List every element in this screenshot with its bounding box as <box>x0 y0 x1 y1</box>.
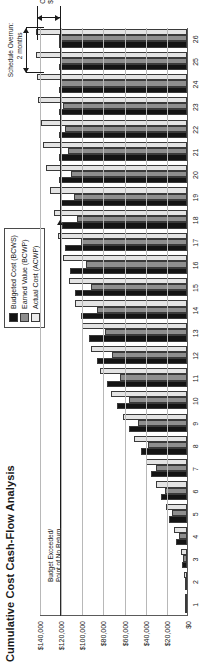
schedule-overrun-label-line1: Schedule Overrun: <box>7 23 14 77</box>
bar-acwp <box>166 504 187 510</box>
bar-bcwp <box>165 488 187 494</box>
bar-bcwp <box>112 352 187 358</box>
x-axis-tick-label: 22 <box>192 126 199 134</box>
x-axis-tick-label: 24 <box>192 81 199 89</box>
x-axis-tick-label: 21 <box>192 148 199 156</box>
cost-overrun-ref-budget <box>60 6 61 40</box>
bar-acwp <box>181 549 187 555</box>
x-axis-tick-label: 6 <box>192 490 199 494</box>
bar-bcws <box>129 426 187 432</box>
bar-bcwp <box>68 148 187 154</box>
bar-bcwp <box>120 374 187 380</box>
bar-bcws <box>107 381 187 387</box>
cost-overrun-label-line1: Cost Overrun: <box>39 0 46 4</box>
x-axis-tick-label: 9 <box>192 422 199 426</box>
schedule-overrun-arrow-left <box>23 68 29 73</box>
plot-area <box>40 28 188 616</box>
y-axis-tick-label: $0 <box>185 621 192 668</box>
legend-swatch-bcws <box>9 313 18 322</box>
bar-bcws <box>185 584 187 590</box>
gridline <box>125 28 126 615</box>
bar-bcws <box>185 607 187 613</box>
y-axis-tick-label: $40,000 <box>142 621 149 668</box>
bar-acwp <box>134 436 187 442</box>
x-axis-tick-label: 17 <box>192 239 199 247</box>
gridline <box>40 28 41 615</box>
bar-bcws <box>65 245 187 251</box>
bar-bcwp <box>97 307 187 313</box>
bar-acwp <box>75 300 187 306</box>
bar-bcws <box>97 358 187 364</box>
bar-bcwp <box>172 510 187 516</box>
bar-bcwp <box>185 601 187 607</box>
bar-acwp <box>185 594 187 600</box>
x-axis-tick-label: 26 <box>192 35 199 43</box>
bar-bcws <box>117 403 187 409</box>
bar-bcwp <box>156 465 187 471</box>
y-axis-tick-label: $140,000 <box>37 621 44 668</box>
bar-bcws <box>141 449 188 455</box>
y-axis-tick-label: $60,000 <box>121 621 128 668</box>
x-axis-tick-label: 25 <box>192 58 199 66</box>
x-axis-tick-label: 5 <box>192 512 199 516</box>
x-axis-tick-label: 7 <box>192 467 199 471</box>
bar-acwp <box>184 572 187 578</box>
legend-label-bcws: Budgeted Cost (BCWS) <box>10 235 17 309</box>
legend-label-bcwp: Earned Value (BCWP) <box>21 239 28 309</box>
x-axis-tick-label: 16 <box>192 262 199 270</box>
y-axis-tick-label: $20,000 <box>163 621 170 668</box>
legend-item-bcws: Budgeted Cost (BCWS) <box>9 235 18 322</box>
page-title: Cumulative Cost Cash-Flow Analysis <box>4 465 16 662</box>
cost-overrun-arrow-bottom <box>55 15 60 21</box>
gridline <box>103 28 104 615</box>
gridline <box>82 28 83 615</box>
y-axis-tick-label: $120,000 <box>58 621 65 668</box>
bar-bcws <box>81 313 187 319</box>
x-axis-tick-label: 15 <box>192 284 199 292</box>
cost-overrun-label-line2: $21,500 <box>47 0 54 4</box>
x-axis-tick-label: 11 <box>192 375 199 382</box>
bar-bcws <box>169 516 187 522</box>
cost-overrun-ref-actual <box>37 6 38 40</box>
bar-bcws <box>75 290 187 296</box>
bar-acwp <box>69 278 187 284</box>
bar-bcwp <box>71 171 187 177</box>
bar-bcws <box>176 539 187 545</box>
x-axis-tick-label: 13 <box>192 329 199 337</box>
y-axis-tick-label: $80,000 <box>100 621 107 668</box>
x-axis-tick-label: 8 <box>192 444 199 448</box>
bar-bcwp <box>86 261 187 267</box>
x-axis-tick-label: 14 <box>192 307 199 315</box>
bar-bcwp <box>91 284 187 290</box>
bar-bcws <box>182 562 187 568</box>
x-axis-tick-label: 2 <box>192 580 199 584</box>
bar-bcws <box>70 268 187 274</box>
x-axis-tick-label: 20 <box>192 171 199 179</box>
legend-label-acwp: Actual Cost (ACWP) <box>32 246 39 309</box>
gridline <box>146 28 147 615</box>
bar-acwp <box>41 120 187 126</box>
schedule-overrun-label-line2: 2 months <box>16 32 23 59</box>
cost-overrun-arrow-top <box>37 15 42 21</box>
schedule-overrun-span <box>26 28 27 73</box>
x-axis-tick-label: 19 <box>192 194 199 202</box>
budget-exceeded-leader <box>60 220 61 528</box>
schedule-overrun-arrow-right <box>23 28 29 33</box>
bar-bcws <box>151 471 187 477</box>
x-axis-tick-label: 12 <box>192 352 199 360</box>
bar-bcwp <box>65 126 187 132</box>
bar-acwp <box>100 368 187 374</box>
rotated-chart-wrapper: Cumulative Cost Cash-Flow Analysis Budge… <box>0 0 216 668</box>
x-axis-tick-label: 4 <box>192 535 199 539</box>
bar-acwp <box>174 527 187 533</box>
gridline <box>61 28 62 615</box>
bar-bcwp <box>185 578 187 584</box>
bar-acwp <box>36 29 187 35</box>
x-axis-tick-label: 10 <box>192 397 199 405</box>
gridline <box>167 28 168 615</box>
bar-bcwp <box>77 216 187 222</box>
legend-item-bcwp: Earned Value (BCWP) <box>20 235 29 322</box>
bar-bcwp <box>179 533 187 539</box>
bar-acwp <box>82 323 187 329</box>
bar-bcwp <box>183 555 187 561</box>
